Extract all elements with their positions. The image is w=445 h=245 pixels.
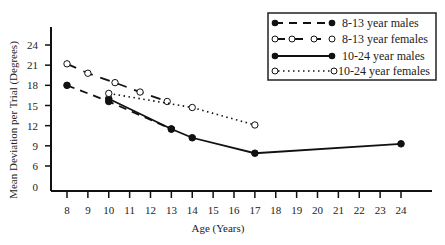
open-circle-marker-icon (64, 61, 70, 67)
open-circle-marker-icon (272, 36, 278, 42)
x-axis-title: Age (Years) (192, 222, 245, 235)
open-circle-marker-icon (112, 79, 118, 85)
filled-circle-marker-icon (64, 82, 71, 89)
open-circle-marker-icon (106, 90, 112, 96)
series-8-13-year-females (64, 61, 171, 105)
y-axis: 0691215182124 (27, 27, 51, 193)
filled-circle-marker-icon (329, 53, 336, 60)
x-tick-label: 9 (85, 204, 91, 216)
x-tick-label: 24 (396, 204, 408, 216)
legend-label: 10-24 year females (338, 64, 430, 78)
y-tick-label: 12 (27, 120, 38, 132)
filled-circle-marker-icon (272, 20, 279, 27)
x-tick-label: 20 (312, 204, 324, 216)
x-tick-label: 22 (354, 204, 365, 216)
open-circle-marker-icon (329, 36, 335, 42)
x-tick-label: 17 (249, 204, 261, 216)
x-tick-label: 10 (103, 204, 115, 216)
x-tick-label: 23 (375, 204, 387, 216)
line-chart: 0691215182124 89101112131415161718192021… (0, 0, 445, 245)
x-tick-label: 11 (124, 204, 135, 216)
y-tick-label: 24 (27, 39, 39, 51)
y-tick-label: 21 (27, 59, 38, 71)
legend-label: 8-13 year males (342, 16, 419, 30)
open-circle-marker-icon (252, 122, 258, 128)
y-tick-label: 9 (33, 140, 39, 152)
filled-circle-marker-icon (168, 126, 175, 133)
open-circle-marker-icon (331, 68, 337, 74)
filled-circle-marker-icon (272, 53, 279, 60)
y-tick-label: 15 (27, 100, 39, 112)
x-tick-label: 13 (166, 204, 178, 216)
open-circle-marker-icon (272, 68, 278, 74)
x-tick-label: 15 (208, 204, 220, 216)
open-circle-marker-icon (137, 89, 143, 95)
y-tick-label: 6 (33, 160, 39, 172)
legend: 8-13 year males 8-13 year females 10-24 … (268, 13, 436, 80)
y-axis-title: Mean Deviation per Trial (Degrees) (7, 41, 20, 199)
open-circle-marker-icon (289, 36, 295, 42)
filled-circle-marker-icon (252, 150, 259, 157)
y-tick-label: 0 (33, 181, 39, 193)
legend-label: 10-24 year males (342, 49, 425, 63)
x-tick-label: 21 (333, 204, 344, 216)
open-circle-marker-icon (311, 36, 317, 42)
open-circle-marker-icon (164, 98, 170, 104)
legend-label: 8-13 year females (342, 32, 428, 46)
x-tick-label: 12 (145, 204, 156, 216)
filled-circle-marker-icon (329, 20, 336, 27)
y-tick-label: 18 (27, 79, 39, 91)
filled-circle-marker-icon (189, 134, 196, 141)
series-8-13-year-males (64, 82, 175, 132)
open-circle-marker-icon (85, 70, 91, 76)
x-tick-label: 8 (64, 204, 70, 216)
x-tick-label: 18 (270, 204, 282, 216)
x-axis: 89101112131415161718192021222324 (51, 191, 432, 216)
open-circle-marker-icon (189, 104, 195, 110)
x-tick-label: 16 (229, 204, 241, 216)
x-tick-label: 19 (291, 204, 303, 216)
filled-circle-marker-icon (398, 141, 405, 148)
x-tick-label: 14 (187, 204, 199, 216)
